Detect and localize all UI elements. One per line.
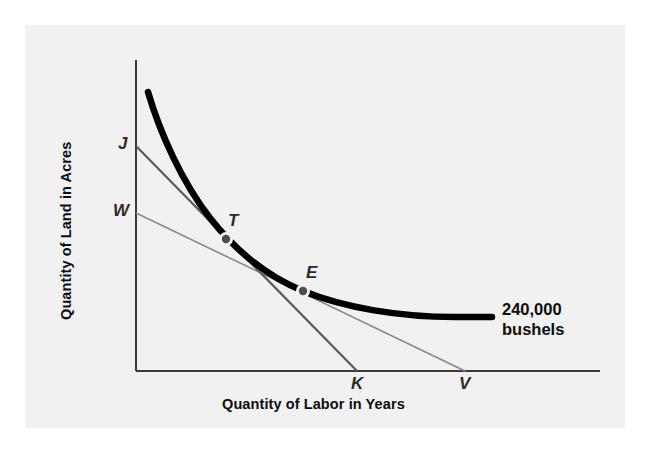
- label-v: V: [459, 374, 470, 394]
- label-t: T: [228, 211, 238, 231]
- label-e: E: [306, 263, 317, 283]
- label-w: W: [113, 201, 129, 221]
- chart-canvas: [0, 0, 649, 455]
- isoquant-curve: [148, 92, 492, 317]
- point-t-marker: [222, 235, 230, 243]
- x-axis-title: Quantity of Labor in Years: [222, 396, 405, 412]
- isoquant-isocost-figure: Quantity of Land in Acres Quantity of La…: [0, 0, 649, 455]
- label-j: J: [118, 134, 127, 154]
- point-e-marker: [299, 287, 307, 295]
- label-k: K: [351, 374, 363, 394]
- isoquant-value: 240,000: [502, 299, 564, 319]
- y-axis-title: Quantity of Land in Acres: [58, 142, 74, 320]
- isoquant-unit: bushels: [502, 319, 564, 339]
- isoquant-annotation: 240,000 bushels: [502, 299, 564, 339]
